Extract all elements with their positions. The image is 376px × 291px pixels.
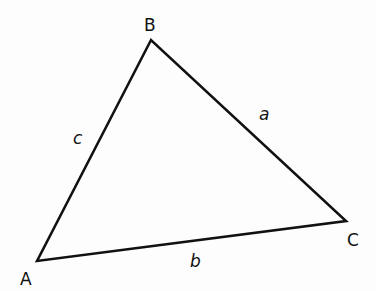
vertex-label-c: C bbox=[347, 230, 359, 250]
triangle-abc bbox=[37, 40, 346, 261]
vertex-label-a: A bbox=[20, 269, 32, 289]
triangle-svg: A B C a b c bbox=[0, 0, 376, 291]
side-label-a: a bbox=[259, 104, 269, 124]
side-label-b: b bbox=[190, 251, 201, 271]
vertex-label-b: B bbox=[144, 15, 156, 35]
side-label-c: c bbox=[73, 128, 83, 148]
triangle-diagram: A B C a b c bbox=[0, 0, 376, 291]
